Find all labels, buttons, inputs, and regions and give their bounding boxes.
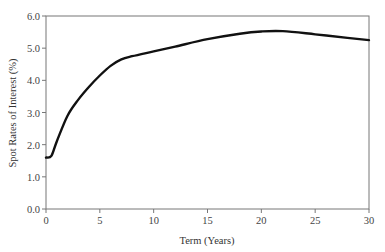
y-tick-label: 1.0	[27, 172, 40, 183]
x-tick-label: 10	[148, 215, 159, 226]
x-axis-title: Term (Years)	[179, 235, 235, 247]
y-tick-label: 3.0	[27, 108, 40, 119]
x-tick-label: 20	[256, 215, 267, 226]
y-tick-label: 2.0	[27, 140, 40, 151]
y-tick-label: 6.0	[27, 11, 40, 22]
y-axis-title: Spot Rates of Interest (%)	[7, 58, 19, 168]
x-tick-label: 0	[43, 215, 48, 226]
x-tick-label: 5	[97, 215, 102, 226]
y-tick-label: 4.0	[27, 75, 40, 86]
y-tick-label: 0.0	[27, 204, 40, 215]
x-tick-label: 15	[202, 215, 213, 226]
spot-rate-line	[46, 31, 369, 158]
x-axis: 051015202530	[43, 209, 374, 226]
x-tick-label: 30	[364, 215, 375, 226]
y-axis: 0.01.02.03.04.05.06.0	[27, 11, 46, 215]
plot-frame	[46, 16, 369, 209]
y-tick-label: 5.0	[27, 43, 40, 54]
spot-rate-chart: 0.01.02.03.04.05.06.0 051015202530 Term …	[0, 0, 385, 252]
x-tick-label: 25	[310, 215, 321, 226]
